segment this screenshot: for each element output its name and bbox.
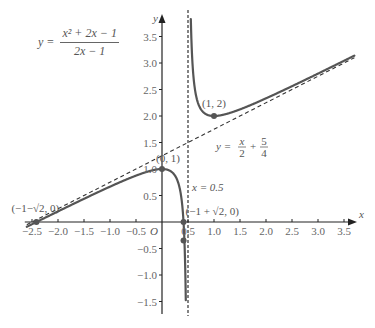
asymptote-plus: + — [250, 140, 256, 152]
point-label: (1, 2) — [202, 97, 226, 110]
axes-layer — [25, 14, 357, 314]
function-plot: xyO−2.5−2.0−1.5−1.0−0.50.51.01.52.02.53.… — [0, 0, 375, 328]
y-axis-arrow-icon — [159, 14, 166, 23]
asymptote-frac2-den: 4 — [261, 147, 267, 159]
x-tick-label: 3.0 — [311, 225, 325, 237]
x-tick-label: 2.5 — [285, 225, 299, 237]
curve-layer — [27, 19, 355, 300]
asymptote-frac1-num: x — [239, 135, 245, 147]
y-tick-label: −0.5 — [137, 243, 157, 255]
y-tick-label: 0.5 — [143, 190, 157, 202]
x-tick-label: 3.5 — [337, 225, 351, 237]
point-label: (−1−√2, 0) — [11, 202, 59, 215]
y-tick-label: 3.0 — [143, 57, 157, 69]
point-label: (0, 1) — [156, 152, 180, 165]
x-tick-label: −1.5 — [74, 225, 94, 237]
asymptote-frac1-den: 2 — [239, 147, 245, 159]
asymptote-frac2-num: 5 — [261, 135, 267, 147]
data-point — [181, 238, 187, 244]
oblique-asymptote-line — [27, 58, 355, 225]
y-tick-label: 2.5 — [143, 84, 157, 96]
x-axis-label: x — [358, 208, 364, 220]
y-tick-label: −1.5 — [137, 296, 157, 308]
x-tick-label: −0.5 — [126, 225, 146, 237]
asymptote-label-lhs: y = — [215, 140, 231, 152]
y-tick-label: −1.0 — [137, 269, 157, 281]
y-tick-label: 3.5 — [143, 31, 157, 43]
x-tick-label: 2.0 — [259, 225, 273, 237]
y-axis-label: y — [152, 12, 158, 24]
y-tick-label: 1.0 — [143, 163, 157, 175]
x-tick-label: 1.5 — [233, 225, 247, 237]
oblique-asymptote-label: y =x2+54 — [215, 135, 268, 159]
asymptotes-layer — [27, 10, 355, 316]
points-layer — [33, 113, 217, 244]
data-point — [159, 166, 165, 172]
vertical-asymptote-label: x = 0.5 — [191, 181, 224, 193]
x-tick-label: −2.5 — [22, 225, 42, 237]
x-tick-label: 1.0 — [207, 225, 221, 237]
point-label: (−1 + √2, 0) — [186, 205, 240, 218]
x-tick-label: −1.0 — [100, 225, 120, 237]
y-tick-label: 2.0 — [143, 110, 157, 122]
data-point — [211, 113, 217, 119]
origin-label: O — [150, 225, 158, 237]
x-tick-label: −2.0 — [48, 225, 68, 237]
y-tick-label: 1.5 — [143, 137, 157, 149]
x-tick-label: 0.5 — [181, 225, 195, 237]
